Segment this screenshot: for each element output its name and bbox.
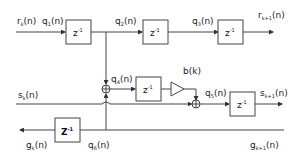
label-gk: gk(n) (26, 140, 47, 151)
label-bk: b(k) (183, 66, 201, 76)
label-rk: rk(n) (17, 16, 36, 27)
label-q2: q2(n) (115, 16, 137, 27)
label-q1: q1(n) (42, 16, 64, 27)
label-sk1: sk+1(n) (260, 88, 288, 99)
label-q6: q6(n) (88, 140, 110, 151)
lattice-filter-diagram: z-1 z-1 z-1 z-1 z-1 Z-1 rk(n) q1(n) q2(n… (0, 0, 297, 155)
sk-line (16, 102, 191, 104)
label-q3: q3(n) (192, 16, 214, 27)
label-gk1: gk+1(n) (250, 140, 279, 151)
label-q5: q5(n) (205, 88, 227, 99)
label-sk: sk(n) (18, 90, 38, 101)
label-rk1: rk+1(n) (258, 10, 285, 21)
label-q4: q4(n) (111, 74, 133, 85)
gain-bk-triangle (171, 82, 184, 96)
